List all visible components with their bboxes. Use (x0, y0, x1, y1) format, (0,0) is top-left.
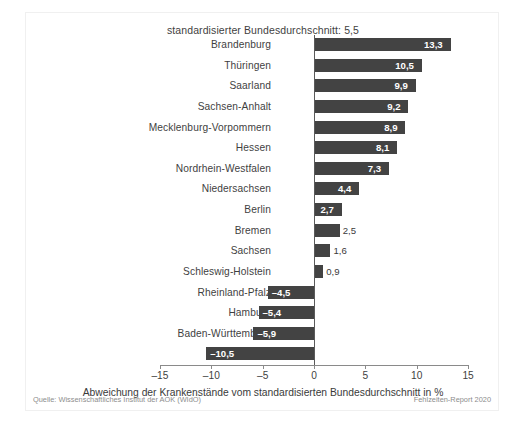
category-label: Hamburg (26, 303, 271, 322)
category-label: Rheinland-Pfalz (26, 283, 271, 302)
x-axis-tick-label: –15 (140, 370, 180, 381)
bar-row: Hessen8,1 (26, 138, 500, 157)
category-label: Nordrhein-Westfalen (26, 159, 271, 178)
category-label: Sachsen-Anhalt (26, 97, 271, 116)
category-label: Mecklenburg-Vorpommern (26, 118, 271, 137)
bar-row: Saarland9,9 (26, 76, 500, 95)
bar-row: Mecklenburg-Vorpommern8,9 (26, 118, 500, 137)
bar-row: Baden-Württemberg–5,9 (26, 324, 500, 343)
bar-row: Sachsen-Anhalt9,2 (26, 97, 500, 116)
bar-row: Niedersachsen4,4 (26, 179, 500, 198)
bar-row: Rheinland-Pfalz–4,5 (26, 283, 500, 302)
bar (314, 265, 323, 278)
x-axis-tick-label: 10 (397, 370, 437, 381)
x-axis-tick-label: 5 (345, 370, 385, 381)
bar (314, 244, 330, 257)
source-note: Quelle: Wissenschaftliches Institut der … (33, 395, 201, 404)
bar-row: Bayern–10,5 (26, 344, 500, 363)
category-label: Berlin (26, 200, 271, 219)
category-label: Niedersachsen (26, 179, 271, 198)
report-note: Fehlzeiten-Report 2020 (414, 395, 491, 404)
bar-value-label: 9,9 (394, 79, 407, 92)
category-label: Hessen (26, 138, 271, 157)
bar-value-label: –5,9 (257, 327, 276, 340)
category-label: Baden-Württemberg (26, 324, 271, 343)
x-axis-tick (468, 365, 469, 369)
category-label: Bremen (26, 221, 271, 240)
x-axis-tick (417, 365, 418, 369)
bar-value-label: 4,4 (338, 182, 351, 195)
bar-value-label: 9,2 (387, 100, 400, 113)
bar (314, 182, 359, 195)
plot-area: Brandenburg13,3Thüringen10,5Saarland9,9S… (26, 35, 500, 365)
x-axis-tick-label: 15 (448, 370, 488, 381)
bar-value-label: 2,5 (343, 224, 356, 237)
x-axis-tick (314, 365, 315, 369)
bar-row: Bremen2,5 (26, 221, 500, 240)
bar-row: Hamburg–5,4 (26, 303, 500, 322)
chart-figure: standardisierter Bundesdurchschnitt: 5,5… (25, 12, 499, 411)
bar-value-label: 0,9 (326, 265, 339, 278)
bar-value-label: 10,5 (395, 59, 414, 72)
x-axis-tick-label: 0 (294, 370, 334, 381)
bar-row: Thüringen10,5 (26, 56, 500, 75)
bar-row: Brandenburg13,3 (26, 35, 500, 54)
bar-row: Nordrhein-Westfalen7,3 (26, 159, 500, 178)
category-label: Saarland (26, 76, 271, 95)
bar-value-label: –4,5 (272, 286, 291, 299)
bar-value-label: 2,7 (321, 203, 334, 216)
bar-value-label: 8,9 (384, 121, 397, 134)
x-axis-tick (365, 365, 366, 369)
bar-row: Schleswig-Holstein0,9 (26, 262, 500, 281)
bar-value-label: 1,6 (333, 244, 346, 257)
x-axis-tick-label: –5 (243, 370, 283, 381)
bar-value-label: 13,3 (424, 38, 443, 51)
x-axis-tick (263, 365, 264, 369)
x-axis-tick (160, 365, 161, 369)
category-label: Schleswig-Holstein (26, 262, 271, 281)
bar-value-label: –5,4 (263, 306, 282, 319)
zero-reference-line (314, 35, 315, 365)
bar-value-label: 7,3 (368, 162, 381, 175)
x-axis-tick (211, 365, 212, 369)
bar (314, 224, 340, 237)
bar-row: Sachsen1,6 (26, 241, 500, 260)
category-label: Thüringen (26, 56, 271, 75)
category-label: Brandenburg (26, 35, 271, 54)
category-label: Sachsen (26, 241, 271, 260)
bar-value-label: 8,1 (376, 141, 389, 154)
x-axis-tick-label: –10 (191, 370, 231, 381)
bar-value-label: –10,5 (210, 347, 234, 360)
bar-row: Berlin2,7 (26, 200, 500, 219)
